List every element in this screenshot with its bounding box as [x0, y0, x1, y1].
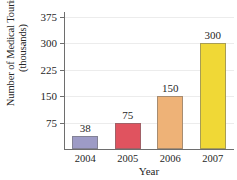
- bar-2004: [72, 136, 98, 149]
- bar-value-label-2004: 38: [63, 123, 107, 134]
- plot-area: 75150225300375 3875150300 20042005200620…: [64, 12, 234, 150]
- gridline-375: [65, 17, 234, 18]
- y-tick-label-75: 75: [17, 118, 57, 129]
- x-axis-line: [64, 149, 234, 150]
- y-tick-label-150: 150: [17, 91, 57, 102]
- y-tick-label-375: 375: [17, 12, 57, 23]
- y-tick-label-300: 300: [17, 38, 57, 49]
- tickmark-225: [60, 70, 65, 71]
- x-axis-label: Year: [64, 165, 234, 177]
- x-tick-label-2007: 2007: [191, 153, 235, 165]
- bar-value-label-2006: 150: [148, 83, 192, 94]
- x-tick-label-2005: 2005: [106, 153, 150, 165]
- cropped-title-remnant: [68, 0, 228, 7]
- x-tick-label-2006: 2006: [148, 153, 192, 165]
- y-axis-label-line-1: Number of Medical Tourists: [5, 0, 17, 123]
- bar-2007: [200, 43, 226, 149]
- bar-value-label-2005: 75: [106, 110, 150, 121]
- y-tick-label-225: 225: [17, 65, 57, 76]
- chart-figure: Number of Medical Tourists (thousands) 7…: [0, 0, 237, 180]
- tickmark-375: [60, 17, 65, 18]
- x-tick-label-2004: 2004: [63, 153, 107, 165]
- y-tick-375: 375: [64, 17, 234, 18]
- tickmark-150: [60, 96, 65, 97]
- tickmark-300: [60, 43, 65, 44]
- bar-2006: [157, 96, 183, 149]
- bar-2005: [115, 123, 141, 149]
- bar-value-label-2007: 300: [191, 30, 235, 41]
